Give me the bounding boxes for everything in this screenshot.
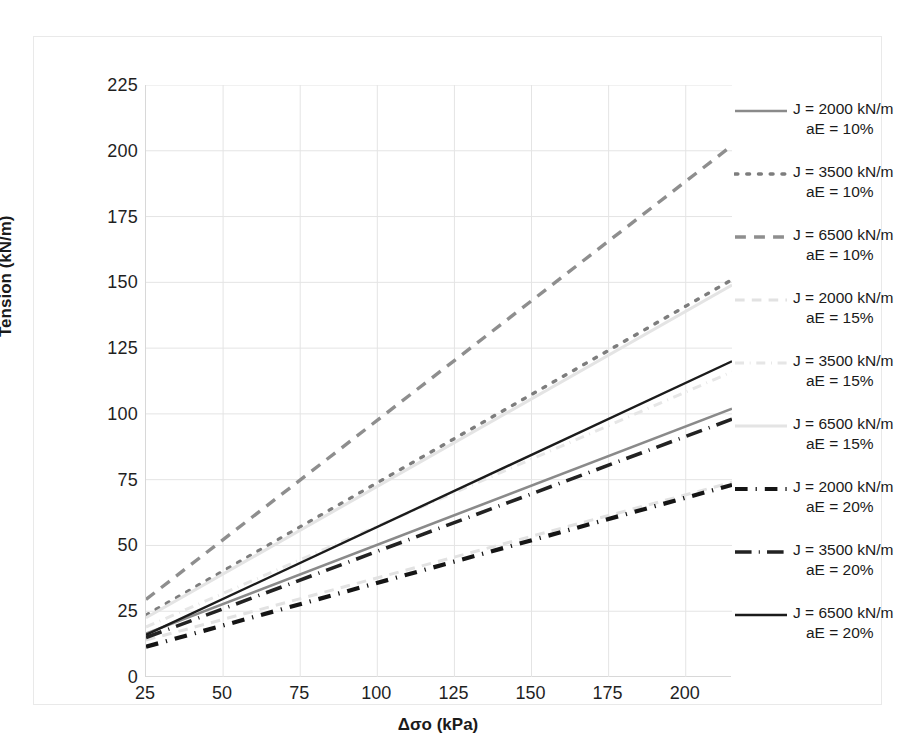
legend-item[interactable]: J = 6500 kN/maE = 10%	[734, 225, 909, 267]
legend-item[interactable]: J = 2000 kN/maE = 20%	[734, 477, 909, 519]
y-axis-tick-labels: 0255075100125150175200225	[60, 85, 138, 677]
series-line	[146, 146, 732, 600]
legend-label: J = 3500 kN/maE = 20%	[793, 540, 893, 580]
legend-label-line1: J = 6500 kN/m	[793, 604, 893, 621]
legend-label-line2: aE = 15%	[793, 371, 893, 391]
series-group	[146, 146, 732, 647]
legend-label-line1: J = 3500 kN/m	[793, 541, 893, 558]
legend-label-line1: J = 2000 kN/m	[793, 100, 893, 117]
legend-line-icon	[734, 351, 788, 375]
series-line	[146, 409, 732, 634]
y-tick-label: 175	[68, 206, 138, 227]
series-line	[146, 361, 732, 635]
legend-label-line1: J = 2000 kN/m	[793, 478, 893, 495]
legend-label-line1: J = 3500 kN/m	[793, 352, 893, 369]
legend-label: J = 2000 kN/maE = 15%	[793, 288, 893, 328]
legend-item[interactable]: J = 6500 kN/maE = 15%	[734, 414, 909, 456]
legend-label-line1: J = 2000 kN/m	[793, 289, 893, 306]
x-tick-label: 150	[501, 683, 561, 704]
legend-line-icon	[734, 288, 788, 312]
legend-label-line2: aE = 15%	[793, 434, 893, 454]
x-axis-title: Δσo (kPa)	[145, 715, 731, 735]
y-tick-label: 225	[68, 75, 138, 96]
legend-label-line1: J = 3500 kN/m	[793, 163, 893, 180]
legend-line-icon	[734, 477, 788, 501]
x-tick-label: 175	[578, 683, 638, 704]
legend-label: J = 6500 kN/maE = 10%	[793, 225, 893, 265]
series-line	[146, 482, 732, 640]
x-tick-label: 50	[192, 683, 252, 704]
plot-svg	[146, 85, 732, 677]
legend-label-line2: aE = 15%	[793, 308, 893, 328]
legend-line-icon	[734, 99, 788, 123]
legend-line-icon	[734, 540, 788, 564]
y-tick-label: 100	[68, 403, 138, 424]
legend-item[interactable]: J = 3500 kN/maE = 20%	[734, 540, 909, 582]
y-tick-label: 200	[68, 140, 138, 161]
legend-label: J = 6500 kN/maE = 20%	[793, 603, 893, 643]
legend-item[interactable]: J = 2000 kN/maE = 15%	[734, 288, 909, 330]
legend-label: J = 2000 kN/maE = 20%	[793, 477, 893, 517]
y-tick-label: 150	[68, 272, 138, 293]
legend-label-line2: aE = 10%	[793, 119, 893, 139]
x-tick-label: 75	[269, 683, 329, 704]
chart-legend: J = 2000 kN/maE = 10%J = 3500 kN/maE = 1…	[734, 99, 909, 666]
legend-item[interactable]: J = 2000 kN/maE = 10%	[734, 99, 909, 141]
legend-label-line2: aE = 20%	[793, 497, 893, 517]
x-tick-label: 200	[655, 683, 715, 704]
legend-line-icon	[734, 603, 788, 627]
legend-label-line2: aE = 10%	[793, 245, 893, 265]
y-axis-title: Tension (kN/m)	[0, 215, 16, 337]
x-tick-label: 100	[346, 683, 406, 704]
legend-line-icon	[734, 225, 788, 249]
legend-line-icon	[734, 162, 788, 186]
legend-label-line1: J = 6500 kN/m	[793, 415, 893, 432]
legend-item[interactable]: J = 3500 kN/maE = 10%	[734, 162, 909, 204]
legend-label: J = 3500 kN/maE = 15%	[793, 351, 893, 391]
legend-line-icon	[734, 414, 788, 438]
legend-label: J = 2000 kN/maE = 10%	[793, 99, 893, 139]
y-tick-label: 50	[68, 535, 138, 556]
y-tick-label: 75	[68, 469, 138, 490]
legend-item[interactable]: J = 6500 kN/maE = 20%	[734, 603, 909, 645]
series-line	[146, 485, 732, 647]
legend-item[interactable]: J = 3500 kN/maE = 15%	[734, 351, 909, 393]
legend-label-line2: aE = 20%	[793, 623, 893, 643]
legend-label-line2: aE = 20%	[793, 560, 893, 580]
y-tick-label: 125	[68, 338, 138, 359]
plot-area	[145, 85, 731, 677]
legend-label-line1: J = 6500 kN/m	[793, 226, 893, 243]
legend-label: J = 3500 kN/maE = 10%	[793, 162, 893, 202]
gridlines	[146, 85, 732, 677]
legend-label: J = 6500 kN/maE = 15%	[793, 414, 893, 454]
y-tick-label: 25	[68, 601, 138, 622]
chart-frame: Tension (kN/m) 0255075100125150175200225…	[33, 36, 882, 705]
x-tick-label: 25	[115, 683, 175, 704]
x-axis-tick-labels: 255075100125150175200	[145, 683, 731, 713]
x-tick-label: 125	[423, 683, 483, 704]
legend-label-line2: aE = 10%	[793, 182, 893, 202]
